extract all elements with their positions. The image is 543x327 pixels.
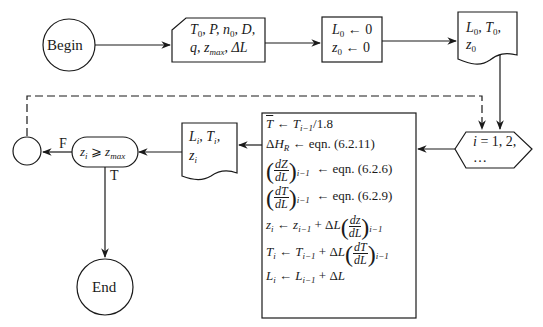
end-label: End — [92, 279, 116, 295]
process-line-tbar: T ← Ti−1/1.8 — [266, 116, 414, 136]
process-line-li: Li ← Li−1 + ΔL — [266, 268, 414, 288]
process-line-dhr: ΔHR ← eqn. (6.2.11) — [266, 136, 414, 156]
process-line-ti: Ti ← Ti−1 + ΔL(dTdL)i−1 — [266, 241, 414, 266]
begin-label: Begin — [47, 37, 83, 53]
init-line-1: L0 ← 0 — [332, 22, 372, 42]
loop-line-2: … — [473, 150, 487, 166]
edge-label-true: T — [110, 168, 119, 184]
edge-label-false: F — [59, 136, 67, 152]
loop-line-1: i = 1, 2, — [473, 134, 516, 150]
process-content: T ← Ti−1/1.8 ΔHR ← eqn. (6.2.11) (dZdL)i… — [266, 116, 414, 288]
input-line-1: T0, P, n0, D, — [190, 22, 255, 42]
input-line-2: q, zmax, ΔL — [190, 40, 247, 60]
decision-label: zi ⩾ zmax — [80, 144, 125, 164]
process-line-dzdl: (dZdL)i−1 ← eqn. (6.2.6) — [266, 158, 414, 183]
output-step-line-1: Li, Ti, — [189, 129, 220, 149]
output-initial-line-2: z0 — [466, 37, 476, 57]
init-line-2: z0 ← 0 — [332, 40, 370, 60]
process-line-dtdl: (dTdL)i−1 ← eqn. (6.2.9) — [266, 185, 414, 210]
process-line-zi: zi ← zi−1 + ΔL(dzdL)i−1 — [266, 214, 414, 239]
output-step-line-2: zi — [189, 148, 197, 168]
connector-circle — [13, 137, 41, 165]
